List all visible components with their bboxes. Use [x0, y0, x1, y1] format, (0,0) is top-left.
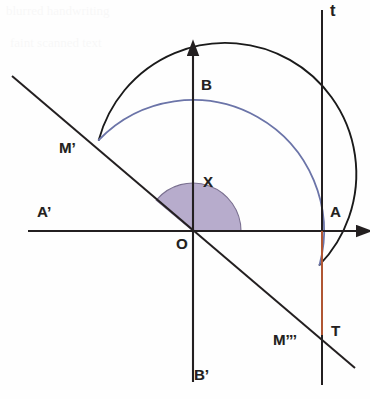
label-point-b-prime: B’ [194, 367, 209, 382]
label-point-m-prime: M’ [59, 140, 76, 155]
label-point-a: A [330, 204, 341, 219]
label-point-a-prime: A’ [37, 204, 51, 219]
label-angle-x: X [203, 174, 213, 189]
angle-sector-x [156, 183, 241, 231]
label-tangent-line-t: t [330, 3, 335, 19]
label-point-b: B [201, 77, 212, 92]
secant-line-through-origin [12, 76, 355, 368]
label-point-m-triple-prime: M’’’ [273, 332, 297, 347]
label-point-t: T [331, 323, 340, 338]
label-point-o: O [176, 236, 188, 251]
geometry-figure [0, 0, 370, 399]
diagram-canvas: blurred handwriting faint scanned text t [0, 0, 370, 399]
